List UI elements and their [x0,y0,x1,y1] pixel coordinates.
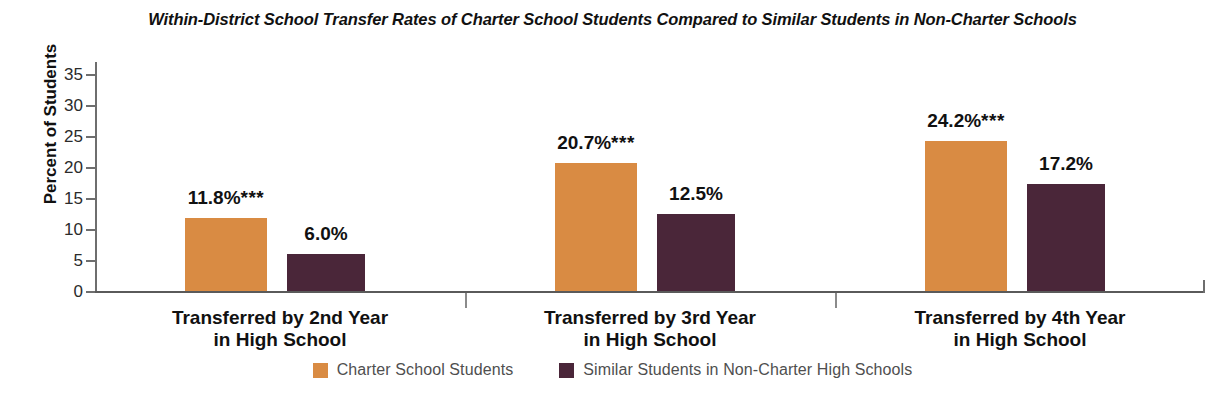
bar-non-charter[interactable] [1027,184,1105,291]
y-axis-line [95,62,97,293]
bar-value-label: 24.2%*** [885,111,1047,130]
bar-value-label: 17.2% [987,154,1145,173]
y-tick-label: 15 [64,190,83,207]
x-category-label-line: in High School [95,329,465,351]
y-tick-label: 0 [74,283,83,300]
bar-value-label: 11.8%*** [145,188,307,207]
legend-swatch-icon [559,363,574,378]
x-category-label-line: in High School [835,329,1205,351]
bar-charter[interactable] [555,163,637,291]
x-axis-line [95,291,1205,293]
y-tick-label: 20 [64,159,83,176]
bar-value-label: 20.7%*** [515,133,677,152]
y-tick-label: 5 [74,252,83,269]
x-category-label: Transferred by 4th Yearin High School [835,307,1205,352]
plot-area: 05101520253035 11.8%***6.0%20.7%***12.5%… [95,62,1205,293]
y-tick [86,105,95,107]
y-tick [86,198,95,200]
group-separator [465,293,467,308]
chart-title: Within-District School Transfer Rates of… [0,10,1225,29]
y-tick [86,167,95,169]
legend-swatch-icon [313,363,328,378]
x-category-label-line: in High School [465,329,835,351]
x-axis-end-tick [1203,280,1205,293]
y-tick [86,136,95,138]
y-tick-label: 35 [64,66,83,83]
bar-value-label: 6.0% [247,224,405,243]
y-tick-label: 25 [64,128,83,145]
x-category-label: Transferred by 3rd Yearin High School [465,307,835,352]
x-category-label-line: Transferred by 2nd Year [95,307,465,329]
legend-label: Charter School Students [337,361,514,379]
y-tick [86,74,95,76]
legend-item[interactable]: Similar Students in Non-Charter High Sch… [559,361,912,379]
group-separator [835,293,837,308]
chart-legend: Charter School StudentsSimilar Students … [0,361,1225,379]
bar-non-charter[interactable] [657,214,735,292]
bar-non-charter[interactable] [287,254,365,291]
y-axis-tick-labels: 05101520253035 [37,62,83,293]
y-tick [86,291,95,293]
y-tick-label: 30 [64,97,83,114]
x-category-label: Transferred by 2nd Yearin High School [95,307,465,352]
y-tick-label: 10 [64,221,83,238]
bar-value-label: 12.5% [617,184,775,203]
legend-label: Similar Students in Non-Charter High Sch… [583,361,912,379]
y-tick [86,229,95,231]
x-category-label-line: Transferred by 4th Year [835,307,1205,329]
y-tick [86,260,95,262]
legend-item[interactable]: Charter School Students [313,361,514,379]
chart-figure: Within-District School Transfer Rates of… [0,0,1225,396]
x-category-label-line: Transferred by 3rd Year [465,307,835,329]
